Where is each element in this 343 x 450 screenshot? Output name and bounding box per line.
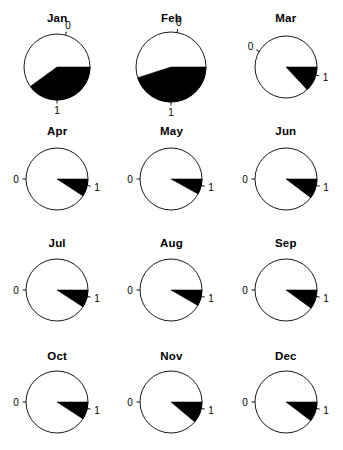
tick-one-mark	[202, 296, 205, 297]
tick-one-label: 1	[323, 405, 329, 416]
tick-one-mark	[316, 296, 319, 297]
panel-aug: Aug01	[114, 225, 228, 338]
wedge	[286, 67, 317, 90]
dial-svg: 01	[121, 365, 221, 443]
tick-zero-label: 0	[242, 174, 248, 185]
dial-svg: 01	[121, 253, 221, 331]
tick-one-label: 1	[94, 182, 100, 193]
wedge	[171, 290, 202, 306]
wedge	[171, 179, 202, 194]
tick-zero-label: 0	[177, 17, 183, 28]
dial-svg: 01	[236, 140, 336, 222]
dial: 01	[7, 365, 107, 443]
dial: 01	[236, 140, 336, 222]
panel-dec: Dec01	[229, 338, 343, 450]
panel-title: Aug	[160, 238, 183, 250]
dial-svg: 01	[7, 365, 107, 443]
panel-title: Jan	[47, 13, 67, 25]
dial-svg: 01	[7, 140, 107, 222]
dial: 01	[121, 140, 221, 222]
panel-title: Oct	[47, 351, 67, 363]
tick-zero-label: 0	[13, 174, 19, 185]
tick-one-mark	[87, 408, 90, 409]
panel-nov: Nov01	[114, 338, 228, 450]
panel-title: Jun	[275, 126, 296, 138]
dial: 01	[7, 140, 107, 222]
dial: 01	[7, 28, 107, 110]
tick-one-mark	[316, 75, 319, 76]
dial: 01	[121, 365, 221, 443]
tick-one-mark	[87, 185, 90, 186]
dial-svg: 01	[236, 28, 336, 110]
dial-svg: 01	[121, 28, 221, 110]
dial-svg: 01	[236, 365, 336, 443]
panel-title: May	[160, 126, 183, 138]
panel-title: Mar	[275, 13, 296, 25]
tick-one-label: 1	[94, 405, 100, 416]
tick-zero-label: 0	[248, 41, 254, 52]
panel-jan: Jan01	[0, 0, 114, 113]
tick-one-mark	[87, 296, 90, 297]
tick-zero-label: 0	[13, 397, 19, 408]
tick-zero-label: 0	[128, 284, 134, 295]
panel-mar: Mar01	[229, 0, 343, 113]
wedge	[57, 179, 88, 196]
dial: 01	[7, 253, 107, 331]
wedge	[57, 290, 88, 307]
tick-one-label: 1	[209, 405, 215, 416]
tick-one-label: 1	[323, 182, 329, 193]
panel-jul: Jul01	[0, 225, 114, 338]
tick-one-label: 1	[323, 72, 329, 83]
tick-zero-mark	[256, 49, 259, 51]
tick-one-mark	[316, 408, 319, 409]
panel-grid: Jan01Feb01Mar01Apr01May01Jun01Jul01Aug01…	[0, 0, 343, 450]
panel-title: Apr	[47, 126, 67, 138]
dial-svg: 01	[236, 253, 336, 331]
tick-zero-label: 0	[242, 397, 248, 408]
dial: 01	[236, 28, 336, 110]
panel-oct: Oct01	[0, 338, 114, 450]
wedge	[138, 67, 206, 102]
tick-one-label: 1	[209, 182, 215, 193]
panel-title: Jul	[49, 238, 66, 250]
wedge	[57, 402, 88, 419]
tick-zero-label: 0	[128, 397, 134, 408]
panel-title: Dec	[275, 351, 297, 363]
tick-one-label: 1	[94, 293, 100, 304]
tick-zero-mark	[66, 31, 67, 34]
tick-one-label: 1	[209, 293, 215, 304]
tick-zero-mark	[178, 29, 179, 32]
dial: 01	[121, 28, 221, 110]
dial: 01	[121, 253, 221, 331]
panel-sep: Sep01	[229, 225, 343, 338]
tick-one-mark	[202, 408, 205, 409]
dial: 01	[236, 253, 336, 331]
panel-title: Nov	[160, 351, 182, 363]
tick-one-mark	[316, 185, 319, 186]
tick-zero-label: 0	[242, 284, 248, 295]
panel-title: Sep	[275, 238, 297, 250]
panel-jun: Jun01	[229, 113, 343, 226]
tick-zero-label: 0	[13, 284, 19, 295]
tick-zero-label: 0	[128, 174, 134, 185]
panel-may: May01	[114, 113, 228, 226]
dial-svg: 01	[7, 253, 107, 331]
dial-svg: 01	[121, 140, 221, 222]
panel-feb: Feb01	[114, 0, 228, 113]
tick-one-mark	[202, 185, 205, 186]
dial-svg: 01	[7, 28, 107, 110]
tick-zero-label: 0	[66, 20, 72, 31]
panel-apr: Apr01	[0, 113, 114, 226]
dial: 01	[236, 365, 336, 443]
tick-one-label: 1	[323, 293, 329, 304]
